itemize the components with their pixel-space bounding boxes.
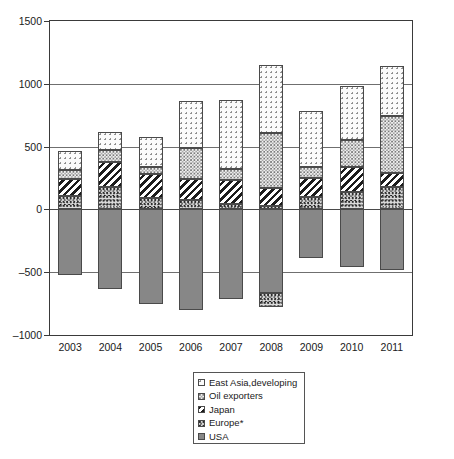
bar-segment[interactable] (219, 100, 243, 169)
bar-segment[interactable] (58, 179, 82, 196)
x-axis-tick-label: 2007 (211, 341, 251, 353)
bar-segment[interactable] (58, 209, 82, 274)
bar-segment[interactable] (219, 209, 243, 299)
bar-group[interactable] (299, 21, 323, 337)
legend: East Asia,developingOil exportersJapanEu… (193, 372, 305, 444)
bar-segment[interactable] (259, 209, 283, 293)
bar-group[interactable] (58, 21, 82, 337)
legend-swatch-icon (198, 433, 205, 440)
x-axis-tick-label: 2009 (291, 341, 331, 353)
bar-segment[interactable] (98, 209, 122, 288)
bar-segment[interactable] (139, 198, 163, 209)
bar-group[interactable] (98, 21, 122, 337)
bar-segment[interactable] (179, 200, 203, 209)
y-axis-tick-label: 1500 (0, 16, 42, 26)
bar-group[interactable] (219, 21, 243, 337)
plot-area (49, 20, 413, 336)
x-axis-tick-label: 2011 (372, 341, 412, 353)
y-axis-tick-label: 500 (0, 142, 42, 152)
legend-item[interactable]: Europe* (198, 417, 300, 430)
bar-segment[interactable] (179, 148, 203, 179)
legend-item[interactable]: Oil exporters (198, 390, 300, 403)
bar-segment[interactable] (380, 209, 404, 269)
x-axis-tick-label: 2004 (90, 341, 130, 353)
legend-swatch-icon (198, 420, 205, 427)
legend-item-label: USA (209, 432, 229, 442)
bar-segment[interactable] (58, 170, 82, 178)
bar-segment[interactable] (179, 179, 203, 200)
bar-segment[interactable] (139, 167, 163, 174)
legend-item[interactable]: Japan (198, 403, 300, 416)
bar-segment[interactable] (98, 132, 122, 150)
bar-segment[interactable] (98, 187, 122, 210)
legend-items: East Asia,developingOil exportersJapanEu… (198, 376, 300, 443)
bar-group[interactable] (259, 21, 283, 337)
bar-segment[interactable] (380, 116, 404, 173)
bar-segment[interactable] (299, 209, 323, 257)
legend-item-label: Japan (209, 405, 235, 415)
bar-segment[interactable] (58, 151, 82, 170)
bar-segment[interactable] (299, 197, 323, 209)
bar-segment[interactable] (259, 293, 283, 307)
bar-segment[interactable] (340, 86, 364, 140)
y-axis-tick-label: 0 (0, 204, 42, 214)
bar-segment[interactable] (219, 169, 243, 180)
legend-swatch-icon (198, 379, 205, 386)
bar-segment[interactable] (340, 167, 364, 192)
x-axis-tick-label: 2005 (131, 341, 171, 353)
bar-segment[interactable] (340, 192, 364, 210)
x-axis-tick-label: 2003 (50, 341, 90, 353)
bar-segment[interactable] (98, 162, 122, 187)
chart-root: 150010005000–500–1000 200320042005200620… (0, 0, 454, 459)
bar-segment[interactable] (179, 209, 203, 310)
bar-group[interactable] (179, 21, 203, 337)
bar-group[interactable] (380, 21, 404, 337)
bar-segment[interactable] (380, 173, 404, 187)
bar-segment[interactable] (380, 187, 404, 210)
bar-segment[interactable] (299, 167, 323, 178)
bar-segment[interactable] (259, 133, 283, 188)
x-axis-tick-label: 2010 (332, 341, 372, 353)
legend-item[interactable]: USA (198, 430, 300, 443)
bar-segment[interactable] (340, 140, 364, 167)
y-axis-tick-label: –1000 (0, 330, 42, 340)
bar-segment[interactable] (299, 111, 323, 167)
legend-item-label: Oil exporters (209, 391, 263, 401)
bar-segment[interactable] (380, 66, 404, 116)
bar-segment[interactable] (179, 101, 203, 148)
bar-segment[interactable] (139, 137, 163, 168)
x-axis-tick-label: 2008 (251, 341, 291, 353)
x-axis-tick-label: 2006 (171, 341, 211, 353)
bar-segment[interactable] (340, 209, 364, 266)
bar-segment[interactable] (219, 180, 243, 204)
bar-group[interactable] (139, 21, 163, 337)
bar-segment[interactable] (299, 178, 323, 197)
legend-item-label: East Asia,developing (209, 378, 297, 388)
legend-item-label: Europe* (209, 418, 243, 428)
legend-item[interactable]: East Asia,developing (198, 376, 300, 389)
y-axis-tick-label: –500 (0, 267, 42, 277)
bar-group[interactable] (340, 21, 364, 337)
bar-segment[interactable] (98, 150, 122, 162)
bar-segment[interactable] (58, 196, 82, 210)
bar-segment[interactable] (139, 209, 163, 304)
bar-segment[interactable] (139, 174, 163, 198)
y-axis-tick-label: 1000 (0, 79, 42, 89)
bar-segment[interactable] (259, 188, 283, 206)
legend-swatch-icon (198, 406, 205, 413)
bar-segment[interactable] (259, 65, 283, 133)
legend-swatch-icon (198, 393, 205, 400)
